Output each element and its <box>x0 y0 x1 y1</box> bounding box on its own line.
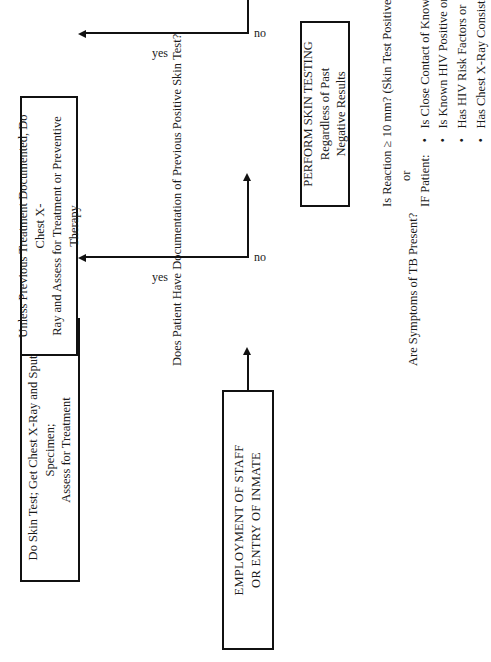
entry-line-2: OR ENTRY OF INMATE <box>249 452 263 588</box>
arrowhead-entry-to-symptoms <box>243 347 251 355</box>
branch-label-symptoms-no: no <box>252 250 268 265</box>
list-item: Has Chest X-Ray Consistent with Past TB <box>472 0 491 129</box>
node-do-skin-test-text: Do Skin Test; Get Chest X-Ray and Sputum… <box>25 330 76 570</box>
arrowhead-prev-positive-yes <box>78 30 86 38</box>
skin-testing-line-1: PERFORM SKIN TESTING <box>301 41 315 187</box>
symptom-action-line-1: Do Skin Test; Get Chest X-Ray and Sputum… <box>26 340 57 561</box>
branch-label-prev-positive-no: no <box>252 26 268 41</box>
legend-or-row: or <box>397 0 416 207</box>
legend-criteria-list: Is Close Contact of Known Case or Is Kno… <box>416 0 491 145</box>
prev-positive-action-line-2: Ray and Assess for Treatment or Preventi… <box>50 116 81 335</box>
node-employment-or-entry-text: EMPLOYMENT OF STAFF OR ENTRY OF INMATE <box>231 444 265 595</box>
skin-testing-line-2: Regardless of Past <box>318 68 332 160</box>
skin-testing-line-3: Negative Results <box>334 71 348 156</box>
symptom-action-line-2: Assess for Treatment <box>59 397 73 503</box>
list-item: Is Known HIV Positive or <box>434 0 453 129</box>
decision-does-patient-have-documentation: Does Patient Have Documentation of Previ… <box>168 34 186 366</box>
connector-prev-positive-junction <box>247 0 249 34</box>
connector-symptoms-junction <box>247 180 249 258</box>
branch-label-prev-positive-yes: yes <box>150 46 170 61</box>
legend-criteria-row: IF Patient: Is Close Contact of Known Ca… <box>416 0 491 207</box>
node-perform-skin-testing: PERFORM SKIN TESTING Regardless of Past … <box>300 21 350 207</box>
entry-line-1: EMPLOYMENT OF STAFF <box>232 444 246 595</box>
node-unless-previous-treatment-text: Unless Previous Treatment Documented, Do… <box>15 108 83 344</box>
legend-if-patient-label: IF Patient: <box>416 155 435 207</box>
list-item: Is Close Contact of Known Case or <box>416 0 435 129</box>
decision-are-symptoms-of-tb-present: Are Symptoms of TB Present? <box>404 213 422 366</box>
arrowhead-symptoms-yes <box>78 254 86 262</box>
list-item: Has HIV Risk Factors or <box>453 0 472 129</box>
connector-prev-positive-yes-riser <box>86 32 248 34</box>
arrowhead-symptoms-no <box>243 173 251 181</box>
branch-label-symptoms-yes: yes <box>150 270 170 285</box>
connector-entry-to-symptoms <box>247 354 249 390</box>
node-unless-previous-treatment-documented: Unless Previous Treatment Documented, Do… <box>20 96 78 356</box>
legend-reaction-threshold: Is Reaction ≥ 10 mm? (Skin Test Positive… <box>378 0 397 207</box>
node-employment-or-entry: EMPLOYMENT OF STAFF OR ENTRY OF INMATE <box>222 390 274 650</box>
legend-block: Is Reaction ≥ 10 mm? (Skin Test Positive… <box>378 0 491 207</box>
node-do-skin-test-chest-xray-sputum: Do Skin Test; Get Chest X-Ray and Sputum… <box>20 318 80 582</box>
legend-reaction-row: Is Reaction ≥ 10 mm? (Skin Test Positive… <box>378 0 397 207</box>
connector-symptoms-yes-riser <box>86 256 248 258</box>
legend-or-label: or <box>397 171 416 181</box>
node-perform-skin-testing-text: PERFORM SKIN TESTING Regardless of Past … <box>300 41 351 187</box>
prev-positive-action-line-1: Unless Previous Treatment Documented, Do… <box>16 114 47 337</box>
